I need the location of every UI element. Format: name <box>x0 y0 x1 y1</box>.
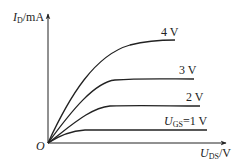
curve-1v <box>48 130 207 143</box>
curve-4v-label: 4 V <box>161 26 178 38</box>
origin-label: O <box>36 140 45 152</box>
y-axis-unit: /mA <box>23 10 44 24</box>
ugs-symbol: U <box>164 114 173 128</box>
curve-2v-label: 2 V <box>186 91 203 103</box>
curve-3v <box>48 79 194 143</box>
x-axis-unit: /V <box>219 146 231 160</box>
x-axis-subscript: DS <box>209 152 219 161</box>
ugs-subscript: GS <box>173 120 183 129</box>
x-axis-symbol: U <box>200 146 209 160</box>
curve-3v-label: 3 V <box>179 64 196 76</box>
y-axis-label: ID/mA <box>13 11 44 25</box>
x-axis-label: UDS/V <box>200 147 231 161</box>
ugs-value: =1 V <box>183 114 207 128</box>
curve-1v-label: UGS=1 V <box>164 115 207 129</box>
